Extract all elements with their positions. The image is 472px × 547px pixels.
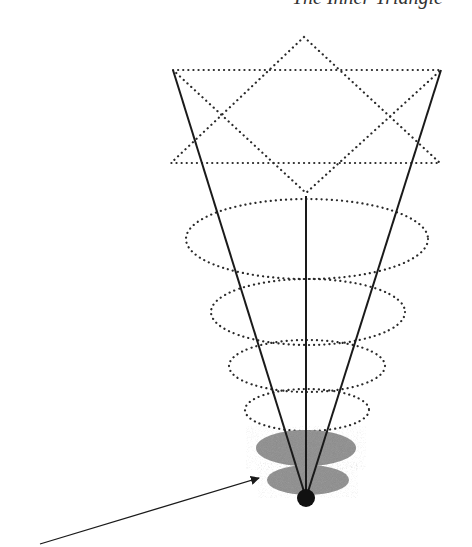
apex-point (297, 489, 315, 507)
inner-triangle-diagram (0, 0, 472, 547)
star-up-triangle (171, 37, 440, 163)
six-pointed-star (171, 37, 441, 193)
pointer-arrow (40, 478, 259, 544)
arrow-line (40, 478, 259, 544)
star-down-triangle (173, 70, 441, 193)
apex-dot (297, 489, 315, 507)
cone-lines (173, 70, 441, 498)
cone-line (173, 70, 306, 498)
cone-line (306, 70, 441, 498)
